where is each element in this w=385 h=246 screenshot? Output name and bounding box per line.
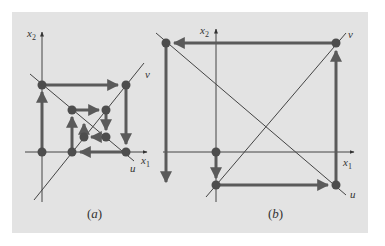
caption-b: (b): [268, 206, 283, 221]
panel-a: x2 x1 u v (a): [25, 27, 150, 221]
x1-label-b: x1: [342, 156, 352, 171]
u-label-a: u: [130, 162, 136, 174]
panel-b: x2 x1 u v (b): [156, 24, 356, 221]
diagram-canvas: x2 x1 u v (a) x2 x1 u: [0, 0, 385, 246]
x2-label-a: x2: [26, 27, 36, 42]
caption-a: (a): [87, 206, 102, 221]
x2-label-b: x2: [199, 24, 209, 39]
v-label-b: v: [348, 28, 353, 40]
v-line-b: [206, 33, 346, 197]
u-label-b: u: [350, 188, 356, 200]
x1-label-a: x1: [140, 154, 150, 169]
v-label-a: v: [145, 68, 150, 80]
u-line-b: [156, 33, 346, 195]
